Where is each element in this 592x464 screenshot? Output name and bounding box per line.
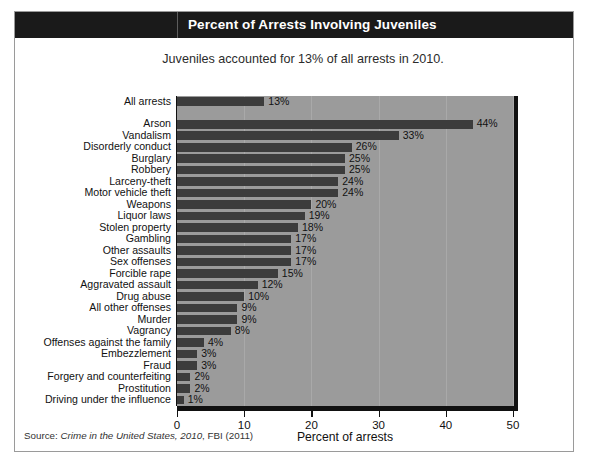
- bar-value-label: 10%: [248, 290, 269, 302]
- category-label: Fraud: [0, 360, 171, 371]
- category-label: Gambling: [0, 233, 171, 244]
- bar: [177, 327, 231, 336]
- bar: [177, 212, 305, 221]
- category-label: All arrests: [0, 96, 171, 107]
- category-label: Other assaults: [0, 245, 171, 256]
- source-prefix: Source:: [24, 430, 61, 441]
- bar-row: 13%: [177, 96, 513, 109]
- category-label: Sex offenses: [0, 256, 171, 267]
- bar-value-label: 17%: [295, 232, 316, 244]
- bar: [177, 258, 291, 267]
- category-label: Embezzlement: [0, 348, 171, 359]
- bar: [177, 315, 237, 324]
- bar-value-label: 44%: [477, 117, 498, 129]
- bar-value-label: 8%: [235, 324, 250, 336]
- chart-title: Percent of Arrests Involving Juveniles: [188, 17, 437, 32]
- bar-value-label: 13%: [268, 95, 289, 107]
- bar: [177, 373, 190, 382]
- bar-value-label: 24%: [342, 186, 363, 198]
- bar: [177, 200, 311, 209]
- plot-area: 13%44%33%26%25%25%24%24%20%19%18%17%17%1…: [177, 96, 518, 411]
- title-divider: [177, 12, 178, 38]
- bar-value-label: 1%: [188, 393, 203, 405]
- x-tick-mark: [446, 411, 447, 417]
- bar-value-label: 17%: [295, 255, 316, 267]
- category-label: Burglary: [0, 153, 171, 164]
- bar-rows: 13%44%33%26%25%25%24%24%20%19%18%17%17%1…: [177, 96, 513, 406]
- x-tick-mark: [177, 411, 178, 417]
- category-label: Robbery: [0, 164, 171, 175]
- bar-value-label: 4%: [208, 336, 223, 348]
- bar: [177, 384, 190, 393]
- bar-value-label: 20%: [315, 198, 336, 210]
- x-tick-mark: [311, 411, 312, 417]
- category-label: All other offenses: [0, 302, 171, 313]
- bar-value-label: 17%: [295, 244, 316, 256]
- bar-value-label: 12%: [262, 278, 283, 290]
- bar-value-label: 3%: [201, 359, 216, 371]
- bar: [177, 166, 345, 175]
- category-label: Motor vehicle theft: [0, 187, 171, 198]
- bar-value-label: 15%: [282, 267, 303, 279]
- source-note: Source: Crime in the United States, 2010…: [24, 430, 253, 441]
- x-tick-mark: [244, 411, 245, 417]
- bar-value-label: 25%: [349, 152, 370, 164]
- chart-subtitle: Juveniles accounted for 13% of all arres…: [0, 52, 592, 66]
- gridline: [513, 96, 514, 406]
- bar-value-label: 19%: [309, 209, 330, 221]
- x-tick-mark: [379, 411, 380, 417]
- category-label: Murder: [0, 314, 171, 325]
- source-suffix: , FBI (2011): [202, 430, 253, 441]
- category-label: Offenses against the family: [0, 337, 171, 348]
- chart-figure: Percent of Arrests Involving Juveniles J…: [0, 0, 592, 464]
- source-title: Crime in the United States, 2010: [61, 430, 203, 441]
- category-label: Forgery and counterfeiting: [0, 371, 171, 382]
- category-label: Drug abuse: [0, 291, 171, 302]
- bar-value-label: 24%: [342, 175, 363, 187]
- category-label: Forcible rape: [0, 268, 171, 279]
- category-label: Vandalism: [0, 130, 171, 141]
- bar: [177, 281, 258, 290]
- bar-value-label: 33%: [403, 129, 424, 141]
- x-tick-mark: [513, 411, 514, 417]
- bar: [177, 304, 237, 313]
- bar: [177, 246, 291, 255]
- bar: [177, 189, 338, 198]
- bar-value-label: 9%: [241, 301, 256, 313]
- bar: [177, 235, 291, 244]
- bar: [177, 396, 184, 405]
- category-label: Driving under the influence: [0, 394, 171, 405]
- category-label: Prostitution: [0, 383, 171, 394]
- category-label: Liquor laws: [0, 210, 171, 221]
- bar-row: 1%: [177, 395, 513, 408]
- category-label: Larceny-theft: [0, 176, 171, 187]
- bar: [177, 120, 473, 129]
- bar: [177, 350, 197, 359]
- category-label: Disorderly conduct: [0, 141, 171, 152]
- bar: [177, 143, 352, 152]
- bar-value-label: 25%: [349, 163, 370, 175]
- bar-value-label: 2%: [194, 382, 209, 394]
- bar: [177, 131, 399, 140]
- bar: [177, 154, 345, 163]
- bar: [177, 97, 264, 106]
- category-label: Stolen property: [0, 222, 171, 233]
- bar: [177, 361, 197, 370]
- bar: [177, 292, 244, 301]
- category-label: Weapons: [0, 199, 171, 210]
- bar-value-label: 26%: [356, 140, 377, 152]
- bar: [177, 338, 204, 347]
- bar-value-label: 9%: [241, 313, 256, 325]
- category-labels: All arrestsArsonVandalismDisorderly cond…: [0, 96, 171, 406]
- bar-value-label: 2%: [194, 370, 209, 382]
- bar-value-label: 18%: [302, 221, 323, 233]
- category-label: Arson: [0, 118, 171, 129]
- bar: [177, 269, 278, 278]
- bar: [177, 177, 338, 186]
- category-label: Vagrancy: [0, 325, 171, 336]
- category-label: Aggravated assault: [0, 279, 171, 290]
- bar: [177, 223, 298, 232]
- bar-value-label: 3%: [201, 347, 216, 359]
